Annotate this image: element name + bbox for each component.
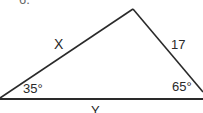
side-y-label: Y	[91, 104, 100, 113]
triangle-diagram	[0, 0, 203, 113]
problem-number: 6.	[19, 0, 30, 6]
side-17-line	[133, 9, 203, 92]
side-17-label: 17	[171, 38, 185, 51]
angle-right-label: 65°	[172, 80, 192, 93]
side-x-line	[0, 9, 133, 98]
side-x-label: X	[54, 37, 63, 51]
angle-left-label: 35°	[23, 82, 43, 95]
